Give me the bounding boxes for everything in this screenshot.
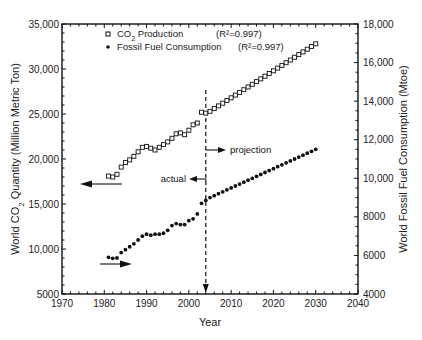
x-tick-label: 1980 (93, 298, 116, 309)
data-point (123, 161, 127, 165)
data-point (229, 186, 233, 190)
x-tick-label: 2040 (347, 298, 370, 309)
data-point (161, 143, 165, 147)
data-point (276, 165, 280, 169)
data-point (115, 256, 119, 260)
data-point (166, 140, 170, 144)
y-tick-label-left: 25,000 (28, 109, 59, 120)
data-point (238, 90, 242, 94)
data-point (183, 223, 187, 227)
data-point (132, 154, 136, 158)
data-point (276, 66, 280, 70)
arrow-right-icon (218, 147, 226, 153)
data-point (284, 61, 288, 65)
data-point (191, 217, 195, 221)
y-tick-label-left: 30,000 (28, 64, 59, 75)
data-point (119, 165, 123, 169)
data-point (284, 161, 288, 165)
y-tick-label-left: 5000 (37, 289, 60, 300)
data-point (272, 167, 276, 171)
legend-fuel-r2: (R²=0.997) (238, 41, 284, 52)
data-point (301, 50, 305, 54)
arrow-left-icon (189, 176, 197, 182)
data-point (191, 123, 195, 127)
data-point (183, 133, 187, 137)
data-point (225, 99, 229, 103)
data-point (263, 74, 267, 78)
axis-ticks (62, 24, 358, 294)
data-point (238, 182, 242, 186)
data-point (267, 169, 271, 173)
data-point (280, 163, 284, 167)
chart: 19701980199020002010202020302040 500010,… (0, 0, 422, 340)
projection-label: projection (230, 144, 271, 155)
x-tick-label: 2010 (220, 298, 243, 309)
y-tick-label-left: 10,000 (28, 244, 59, 255)
data-point (128, 158, 132, 162)
x-tick-labels: 19701980199020002010202020302040 (51, 298, 370, 309)
data-point (149, 233, 153, 237)
data-point (157, 145, 161, 149)
data-point (271, 69, 275, 73)
data-point (107, 255, 111, 259)
data-point (263, 171, 267, 175)
data-point (221, 101, 225, 105)
data-point (217, 192, 221, 196)
y-axis-title-left: World CO2 Quantity (Million Metric Ton) (9, 63, 26, 255)
data-point (145, 232, 149, 236)
data-point (140, 145, 144, 149)
actual-label: actual (161, 173, 186, 184)
data-point (124, 248, 128, 252)
actual-annotation: actual (161, 173, 206, 184)
data-point (305, 47, 309, 51)
data-point (187, 219, 191, 223)
x-tick-label: 2030 (305, 298, 328, 309)
data-point (132, 242, 136, 246)
data-point (297, 53, 301, 57)
fuel-right-axis-arrow (100, 261, 132, 268)
data-point (111, 175, 115, 179)
data-point (136, 150, 140, 154)
y-tick-label-right: 8000 (363, 211, 386, 222)
y-tick-label-right: 6000 (363, 250, 386, 261)
y-tick-label-right: 4000 (363, 289, 386, 300)
y-axis-title-right: World Fossil Fuel Consumption (Mtoe) (397, 65, 409, 252)
data-point (204, 199, 208, 203)
y-tick-label-right: 16,000 (363, 57, 394, 68)
data-point (229, 96, 233, 100)
data-point (178, 131, 182, 135)
data-point (170, 224, 174, 228)
y-tick-label-right: 10,000 (363, 173, 394, 184)
data-point (267, 72, 271, 76)
data-point (208, 196, 212, 200)
data-point (225, 188, 229, 192)
series-co2-production (107, 42, 318, 179)
data-point (259, 77, 263, 81)
data-point (250, 176, 254, 180)
data-point (166, 228, 170, 232)
data-point (314, 147, 318, 151)
co2-left-axis-arrow (80, 181, 122, 188)
x-tick-label: 1990 (135, 298, 158, 309)
data-point (204, 111, 208, 115)
data-point (288, 159, 292, 163)
series-fossil-fuel-consumption (107, 147, 318, 260)
data-point (115, 172, 119, 176)
data-point (149, 146, 153, 150)
y-tick-label-right: 12,000 (363, 134, 394, 145)
data-point (208, 109, 212, 113)
data-point (293, 157, 297, 161)
data-point (174, 132, 178, 136)
data-point (293, 55, 297, 59)
y-tick-label-right: 14,000 (363, 96, 394, 107)
data-point (246, 85, 250, 89)
x-axis-title: Year (199, 316, 222, 328)
x-tick-label: 2000 (178, 298, 201, 309)
legend-fuel-label: Fossil Fuel Consumption (117, 41, 222, 52)
legend-co2-r2: (R²=0.997) (216, 28, 262, 39)
y-tick-label-left: 20,000 (28, 154, 59, 165)
data-point (200, 110, 204, 114)
y-tick-label-right: 18,000 (363, 19, 394, 30)
data-point (195, 121, 199, 125)
data-point (145, 144, 149, 148)
